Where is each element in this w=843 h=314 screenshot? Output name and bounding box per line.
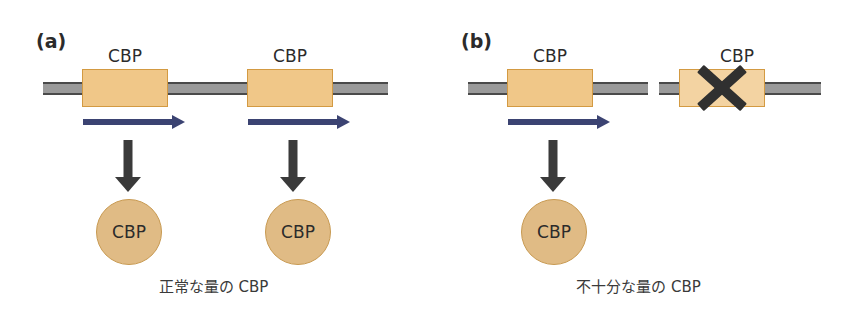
figure-canvas: (a) CBP CBP CBP CBP (0, 0, 843, 314)
arrow-shaft (289, 140, 298, 178)
gene-box-a2 (247, 69, 333, 107)
transcription-arrow-b1 (508, 115, 610, 129)
panel-a-letter: (a) (36, 30, 66, 52)
protein-label-a2: CBP (281, 222, 315, 242)
protein-circle-b1: CBP (521, 199, 587, 265)
arrow-head (280, 177, 306, 192)
gene-label-a1: CBP (80, 46, 170, 66)
protein-label-a1: CBP (112, 222, 146, 242)
arrow-shaft (508, 119, 598, 125)
gene-label-a2: CBP (245, 46, 335, 66)
protein-circle-a2: CBP (265, 199, 331, 265)
gene-label-b1: CBP (505, 46, 595, 66)
transcription-arrow-a1 (83, 115, 185, 129)
arrow-shaft (248, 119, 338, 125)
arrow-shaft (549, 140, 558, 178)
production-arrow-a1 (115, 140, 141, 192)
arrow-shaft (83, 119, 173, 125)
gene-box-b1 (507, 69, 593, 107)
protein-label-b1: CBP (537, 222, 571, 242)
arrow-head (337, 115, 350, 129)
panel-b-caption: 不十分な量の CBP (521, 275, 756, 296)
panel-a-caption: 正常な量の CBP (96, 275, 331, 296)
production-arrow-a2 (280, 140, 306, 192)
panel-b-letter: (b) (461, 30, 492, 52)
arrow-head (172, 115, 185, 129)
gene-box-a1 (82, 69, 168, 107)
gene-box-b2-mutated (679, 69, 765, 107)
arrow-shaft (124, 140, 133, 178)
protein-circle-a1: CBP (96, 199, 162, 265)
arrow-head (540, 177, 566, 192)
transcription-arrow-a2 (248, 115, 350, 129)
gene-label-b2: CBP (692, 46, 782, 66)
production-arrow-b1 (540, 140, 566, 192)
arrow-head (597, 115, 610, 129)
arrow-head (115, 177, 141, 192)
